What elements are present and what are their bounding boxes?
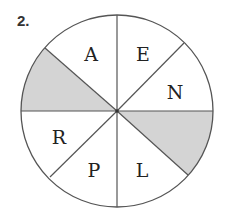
- sector-label-r: R: [52, 126, 67, 148]
- sector-label-e: E: [136, 43, 150, 65]
- spinner-diagram: A E N L P R: [0, 0, 229, 219]
- shaded-sector-left: [21, 48, 117, 111]
- sector-label-p: P: [88, 159, 101, 181]
- sector-label-l: L: [136, 159, 149, 181]
- shaded-sector-right: [117, 111, 213, 175]
- center-hub: [115, 109, 119, 113]
- sector-label-a: A: [83, 43, 98, 65]
- sector-label-n: N: [167, 81, 184, 103]
